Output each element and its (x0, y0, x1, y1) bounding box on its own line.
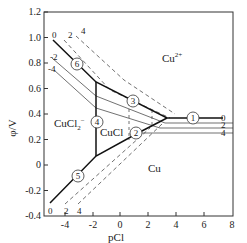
contour-label: -4 (48, 64, 56, 74)
circle-label-5: 5 (76, 171, 81, 181)
region-cucl: CuCl (100, 126, 123, 138)
contour-label: 4 (81, 26, 86, 36)
circle-label-1: 1 (191, 113, 196, 123)
y-tick: 0 (36, 159, 41, 170)
circle-label-2: 2 (134, 128, 139, 138)
circle-label-4: 4 (95, 117, 100, 127)
y-tick: 1.2 (29, 6, 42, 17)
x-tick: 6 (202, 219, 207, 230)
contour-label: 4 (77, 206, 82, 216)
circle-label-6: 6 (75, 59, 80, 69)
contour-label: 0 (48, 206, 53, 216)
y-tick: 0.4 (29, 108, 42, 119)
y-tick: -0.2 (25, 185, 41, 196)
contour-label: 2 (68, 30, 73, 40)
y-axis-label: φ/V (6, 119, 18, 136)
contour-label: 2 (64, 206, 69, 216)
region-cu2plus: Cu2+ (162, 51, 182, 64)
y-tick: 0.8 (29, 57, 42, 68)
plot-frame (44, 12, 233, 216)
contour-label: 0 (52, 30, 57, 40)
region-cu: Cu (148, 162, 161, 174)
y-tick: 0.6 (29, 83, 42, 94)
pourbaix-chart: 1.2 1.0 0.8 0.6 0.4 0.2 0 -0.2 -0.4 φ/V … (0, 0, 247, 243)
x-tick: 0 (118, 219, 123, 230)
y-tick: -0.4 (25, 210, 41, 221)
y-tick: 1.0 (29, 32, 42, 43)
circle-label-3: 3 (131, 96, 136, 106)
x-axis: -4 -2 0 2 4 6 8 pCl (61, 212, 235, 243)
x-tick: -4 (61, 219, 69, 230)
x-tick: 2 (146, 219, 151, 230)
contour-label: 4 (221, 128, 226, 138)
x-tick: 8 (230, 219, 235, 230)
region-labels: Cu2+ CuCl2− CuCl Cu (54, 51, 182, 174)
x-tick: -2 (89, 219, 97, 230)
contour-label: -2 (50, 52, 58, 62)
y-tick: 0.2 (29, 134, 42, 145)
x-tick: 4 (174, 219, 179, 230)
x-axis-label: pCl (108, 231, 124, 243)
y-axis: 1.2 1.0 0.8 0.6 0.4 0.2 0 -0.2 -0.4 φ/V (6, 6, 48, 221)
region-cucl2minus: CuCl2− (54, 117, 85, 132)
